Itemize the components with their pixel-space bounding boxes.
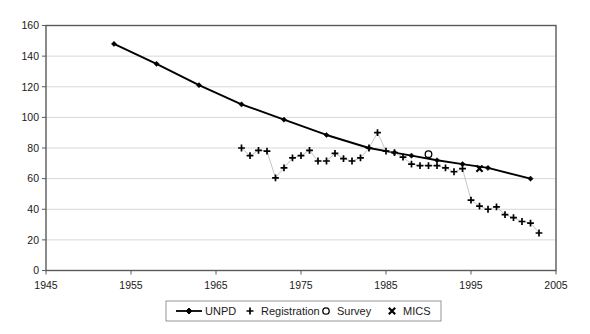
legend-label-registration: Registration <box>261 305 320 317</box>
x-tick-label: 1965 <box>204 279 228 291</box>
legend-label-mics: MICS <box>403 305 431 317</box>
x-tick-label: 1995 <box>459 279 483 291</box>
x-tick-label: 1975 <box>289 279 313 291</box>
x-tick-label: 1955 <box>119 279 143 291</box>
y-tick-label: 20 <box>27 234 39 246</box>
chart-svg: 020406080100120140160 194519551965197519… <box>0 0 590 334</box>
x-tick-label: 1985 <box>374 279 398 291</box>
chart-legend: UNPDRegistrationSurveyMICS <box>166 301 441 321</box>
y-tick-label: 140 <box>21 50 39 62</box>
y-tick-label: 160 <box>21 19 39 31</box>
y-tick-label: 60 <box>27 172 39 184</box>
legend-label-survey: Survey <box>337 305 372 317</box>
y-tick-label: 40 <box>27 203 39 215</box>
legend-label-unpd: UNPD <box>205 305 236 317</box>
x-tick-label: 2005 <box>544 279 568 291</box>
y-tick-label: 100 <box>21 111 39 123</box>
y-tick-label: 80 <box>27 142 39 154</box>
chart-container: 020406080100120140160 194519551965197519… <box>0 0 590 334</box>
x-tick-label: 1945 <box>34 279 58 291</box>
y-tick-label: 0 <box>33 264 39 276</box>
y-tick-label: 120 <box>21 81 39 93</box>
